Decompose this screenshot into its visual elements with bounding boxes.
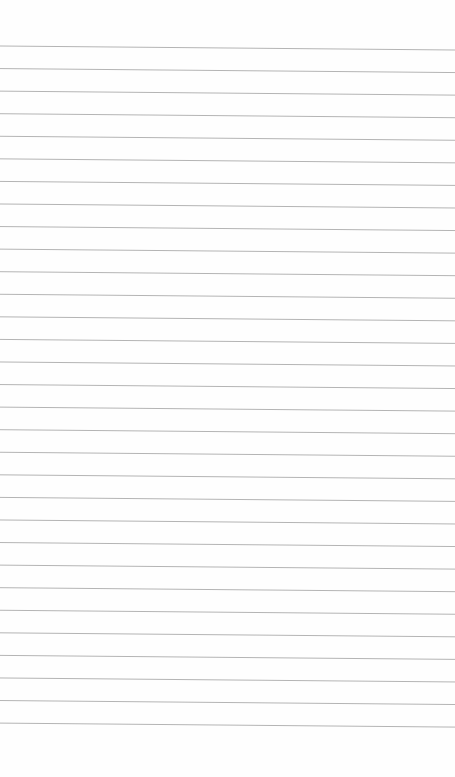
ruled-line xyxy=(0,181,455,185)
ruled-line xyxy=(0,588,455,592)
ruled-line xyxy=(0,407,455,411)
ruled-line xyxy=(0,430,455,434)
ruled-line xyxy=(0,520,455,524)
ruled-line xyxy=(0,317,455,321)
ruled-line xyxy=(0,204,455,208)
ruled-line xyxy=(0,339,455,343)
ruled-line xyxy=(0,114,455,118)
ruled-line xyxy=(0,610,455,614)
ruled-line xyxy=(0,159,455,163)
ruled-line xyxy=(0,452,455,456)
ruled-lines xyxy=(0,0,455,777)
ruled-line xyxy=(0,678,455,682)
ruled-line xyxy=(0,543,455,547)
ruled-line xyxy=(0,633,455,637)
ruled-line xyxy=(0,497,455,501)
ruled-line xyxy=(0,136,455,140)
ruled-line xyxy=(0,655,455,659)
ruled-line xyxy=(0,249,455,253)
ruled-line xyxy=(0,723,455,727)
lined-paper-sheet xyxy=(0,0,455,777)
ruled-line xyxy=(0,475,455,479)
ruled-line xyxy=(0,91,455,95)
ruled-line xyxy=(0,362,455,366)
ruled-line xyxy=(0,69,455,73)
ruled-line xyxy=(0,701,455,705)
ruled-line xyxy=(0,294,455,298)
ruled-line xyxy=(0,46,455,50)
ruled-line xyxy=(0,385,455,389)
ruled-line xyxy=(0,272,455,276)
ruled-line xyxy=(0,565,455,569)
ruled-line xyxy=(0,227,455,231)
